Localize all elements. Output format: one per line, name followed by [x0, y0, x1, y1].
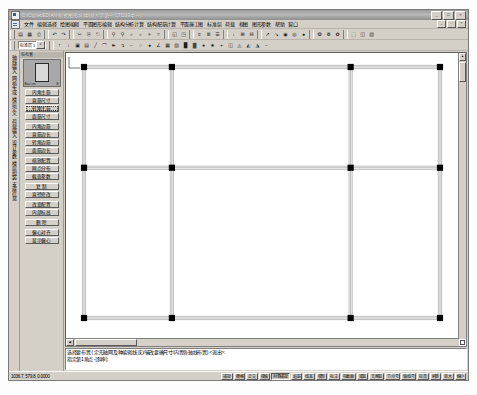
panel-button-14[interactable]: 内部标高 [25, 209, 59, 216]
draw-tool-button-22[interactable]: ◮ [253, 41, 262, 50]
toolbar-button-2-2[interactable]: ⎋ [93, 30, 102, 39]
panel-button-8[interactable]: 缩放配置 [25, 157, 59, 164]
column-marker-10[interactable] [348, 315, 354, 321]
menu-item-load[interactable]: 荷载 [223, 20, 236, 28]
draw-tool-button-4[interactable]: ╱ [91, 41, 100, 50]
draw-tool-button-19[interactable]: ◫ [226, 41, 235, 50]
panel-button-12[interactable]: 直径修改 [25, 191, 59, 198]
status-toggle-13[interactable]: 轴线号 [401, 373, 416, 380]
toolbar-grip[interactable] [10, 30, 15, 39]
column-marker-5[interactable] [169, 165, 175, 171]
vertical-tab-2[interactable]: 楼层定义 [11, 96, 17, 117]
menu-item-edit[interactable]: 编辑选择 [35, 20, 58, 28]
vertical-tab-0[interactable]: 轴线输入 [11, 54, 17, 75]
toolbar-button-9-0[interactable]: ⬚ [349, 30, 358, 39]
toolbar-button-8-1[interactable]: ❁ [324, 30, 333, 39]
toolbar-button-4-0[interactable]: ◱ [170, 30, 179, 39]
toolbar-button-7-3[interactable]: ◎ [290, 30, 299, 39]
scroll-up-arrow-icon[interactable]: ▲ [459, 53, 466, 61]
menu-item-draw[interactable]: 绘图编辑 [58, 20, 81, 28]
draw-tool-button-9[interactable]: ○ [136, 41, 145, 50]
toolbar-button-3-2[interactable]: ⌕ [127, 30, 136, 39]
menu-item-story[interactable]: 标准层 [205, 20, 223, 28]
toolbar-button-4-1[interactable]: ◳ [179, 30, 188, 39]
status-toggle-3[interactable]: 极轴 [259, 373, 270, 380]
draw-tool-button-8[interactable]: ⌐ [127, 41, 136, 50]
toolbar-button-0-0[interactable]: ▤ [16, 30, 25, 39]
panel-button-0[interactable]: 内角主筋 [25, 89, 59, 96]
scroll-left-arrow-icon[interactable]: ◀ [66, 339, 74, 346]
panel-button-2[interactable]: 转角主筋 [25, 105, 59, 112]
draw-tool-button-21[interactable]: ◭ [244, 41, 253, 50]
draw-tool-button-11[interactable]: ∠ [154, 41, 163, 50]
panel-button-13[interactable]: 改变配置 [25, 201, 59, 208]
toolbar-button-5-0[interactable]: ≡ [195, 30, 204, 39]
menu-item-analysis[interactable]: 结构分析计算 [113, 20, 145, 28]
minimize-button[interactable]: _ [431, 11, 442, 20]
menu-item-plan[interactable]: 平面图形编辑 [81, 20, 113, 28]
toolbar-button-3-5[interactable]: ⌗ [154, 30, 163, 39]
toolbar-button-6-0[interactable]: ↓ [229, 30, 238, 39]
status-toggle-5[interactable]: 追踪 [291, 373, 302, 380]
toolbar-button-8-2[interactable]: ✿ [333, 30, 342, 39]
panel-button-16[interactable]: 偏心对齐 [25, 229, 59, 236]
toolbar-button-5-1[interactable]: ≣ [204, 30, 213, 39]
toolbar-button-7-4[interactable]: ● [299, 30, 308, 39]
status-toggle-4[interactable]: 对象捕捉 [271, 373, 290, 380]
toolbar-button-3-4[interactable]: ⌖ [145, 30, 154, 39]
menu-item-params[interactable]: 图形参数 [250, 20, 273, 28]
vertical-tab-6[interactable]: 支座信息 [11, 181, 17, 202]
toolbar-button-3-3[interactable]: ⌕ [136, 30, 145, 39]
maximize-button[interactable]: □ [443, 11, 454, 20]
toolbar-button-3-1[interactable]: ⚲ [118, 30, 127, 39]
toolbar-button-2-0[interactable]: ✂ [75, 30, 84, 39]
panel-button-11[interactable]: 复 制 [25, 183, 59, 190]
column-marker-0[interactable] [81, 64, 87, 70]
vertical-tab-3[interactable]: 荷载输入 [11, 118, 17, 139]
menu-item-help[interactable]: 帮助 [273, 20, 286, 28]
horizontal-scroll-thumb[interactable] [75, 339, 137, 346]
column-marker-6[interactable] [348, 165, 354, 171]
status-toggle-6[interactable]: 线宽 [303, 373, 314, 380]
panel-button-15[interactable]: 删 除 [25, 219, 59, 226]
status-toggle-17[interactable]: 缩小 [455, 373, 466, 380]
column-marker-7[interactable] [437, 165, 443, 171]
draw-tool-button-0[interactable]: ↑ [55, 41, 64, 50]
status-toggle-2[interactable]: 正交 [246, 373, 257, 380]
mdi-close-button[interactable]: × [457, 20, 466, 28]
column-marker-2[interactable] [348, 64, 354, 70]
draw-tool-button-23[interactable]: − [262, 41, 271, 50]
status-toggle-10[interactable]: 梁宽 [357, 373, 368, 380]
draw-tool-button-14[interactable]: █ [181, 41, 190, 50]
column-marker-3[interactable] [437, 64, 443, 70]
toolbar-button-7-0[interactable]: ↗ [263, 30, 272, 39]
command-history[interactable]: 选择要布置 ( 定形轴网及种编辑线 或)/输改要确尺寸/内置各轴线布置) <退出… [65, 348, 467, 370]
status-toggle-0[interactable]: 捕捉 [221, 373, 232, 380]
panel-button-3[interactable]: 面筋尺寸 [25, 113, 59, 120]
vertical-tab-1[interactable]: 网格生成 [11, 75, 17, 96]
status-toggle-8[interactable]: 标注 [328, 373, 339, 380]
draw-tool-button-16[interactable]: ♠ [199, 41, 208, 50]
status-toggle-1[interactable]: 栅格 [234, 373, 245, 380]
panel-button-6[interactable]: 转角边筋 [25, 139, 59, 146]
menu-item-rebar[interactable]: 结构配筋计算 [145, 20, 177, 28]
toolbar-button-0-2[interactable]: ⎙ [34, 30, 43, 39]
status-toggle-11[interactable]: 支座宽 [369, 373, 384, 380]
toolbar-button-1-0[interactable]: ↶ [50, 30, 59, 39]
draw-tool-button-2[interactable]: ▣ [73, 41, 82, 50]
draw-tool-button-3[interactable]: ▤ [82, 41, 91, 50]
status-toggle-7[interactable]: 模型 [316, 373, 327, 380]
draw-tool-button-18[interactable]: + [217, 41, 226, 50]
menu-item-window[interactable]: 窗口 [286, 20, 299, 28]
draw-tool-button-5[interactable]: ⌒ [100, 41, 109, 50]
toolbar-button-6-2[interactable]: ⊟ [247, 30, 256, 39]
status-toggle-12[interactable]: 节点号 [385, 373, 400, 380]
toolbar-button-2-1[interactable]: ⎘ [84, 30, 93, 39]
panel-button-1[interactable]: 直筋尺寸 [25, 97, 59, 104]
status-toggle-16[interactable]: 放大 [442, 373, 453, 380]
draw-tool-button-17[interactable]: ★ [208, 41, 217, 50]
toolbar-button-1-1[interactable]: ↷ [59, 30, 68, 39]
toolbar-button-0-1[interactable]: ▦ [25, 30, 34, 39]
vertical-scrollbar[interactable]: ▲ [458, 53, 466, 339]
mdi-minimize-button[interactable]: _ [437, 20, 446, 28]
